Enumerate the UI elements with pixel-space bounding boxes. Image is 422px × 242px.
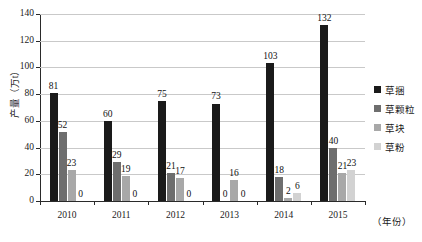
x-axis-title: （年份） bbox=[372, 214, 412, 228]
x-axis-tick bbox=[311, 201, 312, 205]
bar-value-label: 29 bbox=[102, 151, 132, 160]
bar bbox=[212, 104, 220, 202]
bar-value-label: 52 bbox=[48, 121, 78, 130]
x-axis-tick bbox=[257, 201, 258, 205]
bar-value-label: 0 bbox=[66, 190, 96, 199]
x-axis-tick-label: 2014 bbox=[258, 210, 310, 220]
legend-item[interactable]: 草捆 bbox=[374, 80, 415, 99]
bar bbox=[158, 101, 166, 201]
y-axis-tick bbox=[36, 121, 40, 122]
bar-value-label: 73 bbox=[201, 92, 231, 101]
bar bbox=[284, 198, 292, 201]
y-axis-tick bbox=[36, 174, 40, 175]
x-axis-tick bbox=[365, 201, 366, 205]
x-axis-tick bbox=[203, 201, 204, 205]
bar-value-label: 23 bbox=[336, 159, 366, 168]
bar bbox=[347, 170, 355, 201]
gridline bbox=[40, 67, 365, 68]
legend-label: 草粉 bbox=[385, 140, 405, 154]
legend-label: 草颗粒 bbox=[385, 102, 415, 116]
bar-value-label: 40 bbox=[318, 137, 348, 146]
y-axis-tick-label: 100 bbox=[6, 62, 34, 71]
y-axis-tick bbox=[36, 148, 40, 149]
y-axis-tick-label: 40 bbox=[6, 143, 34, 152]
bar-value-label: 0 bbox=[228, 190, 258, 199]
legend-item[interactable]: 草粉 bbox=[374, 137, 415, 156]
legend-label: 草捆 bbox=[385, 83, 405, 97]
legend-swatch-icon bbox=[374, 86, 381, 93]
x-axis-tick-label: 2012 bbox=[149, 210, 201, 220]
chart-legend: 草捆草颗粒草块草粉 bbox=[374, 80, 415, 156]
bar bbox=[329, 148, 337, 201]
y-axis-tick bbox=[36, 14, 40, 15]
x-axis-tick-label: 2013 bbox=[204, 210, 256, 220]
y-axis-tick-label: 140 bbox=[6, 9, 34, 18]
bar bbox=[320, 25, 328, 201]
bar bbox=[338, 173, 346, 201]
bar bbox=[266, 63, 274, 201]
bar bbox=[50, 93, 58, 201]
y-axis-tick-label: 20 bbox=[6, 169, 34, 178]
y-axis-tick-label: 120 bbox=[6, 36, 34, 45]
bar-value-label: 0 bbox=[174, 190, 204, 199]
bar-value-label: 23 bbox=[57, 159, 87, 168]
y-axis-tick-label: 60 bbox=[6, 116, 34, 125]
x-axis-tick bbox=[94, 201, 95, 205]
bar-chart: 产量（万t） 020406080100120140201081522302011… bbox=[0, 0, 422, 242]
bar-value-label: 132 bbox=[309, 14, 339, 23]
gridline bbox=[40, 174, 365, 175]
gridline bbox=[40, 148, 365, 149]
x-axis-tick-label: 2011 bbox=[95, 210, 147, 220]
bar bbox=[104, 121, 112, 201]
legend-label: 草块 bbox=[385, 121, 405, 135]
bar-value-label: 19 bbox=[111, 165, 141, 174]
bar-value-label: 75 bbox=[147, 90, 177, 99]
legend-swatch-icon bbox=[374, 143, 381, 150]
bar-value-label: 16 bbox=[219, 169, 249, 178]
y-axis-tick-label: 0 bbox=[6, 196, 34, 205]
gridline bbox=[40, 41, 365, 42]
bar-value-label: 6 bbox=[282, 182, 312, 191]
legend-swatch-icon bbox=[374, 124, 381, 131]
legend-item[interactable]: 草颗粒 bbox=[374, 99, 415, 118]
bar-value-label: 81 bbox=[39, 82, 69, 91]
x-axis-tick-label: 2015 bbox=[312, 210, 364, 220]
y-axis-tick bbox=[36, 94, 40, 95]
bar-value-label: 18 bbox=[264, 166, 294, 175]
y-axis-tick bbox=[36, 41, 40, 42]
gridline bbox=[40, 121, 365, 122]
y-axis-tick-label: 80 bbox=[6, 89, 34, 98]
bar-value-label: 0 bbox=[120, 190, 150, 199]
x-axis-tick bbox=[148, 201, 149, 205]
x-axis-tick bbox=[40, 201, 41, 205]
y-axis-tick bbox=[36, 67, 40, 68]
legend-swatch-icon bbox=[374, 105, 381, 112]
bar bbox=[293, 193, 301, 201]
bar-value-label: 103 bbox=[255, 52, 285, 61]
y-axis-line bbox=[40, 14, 41, 201]
bar-value-label: 17 bbox=[165, 167, 195, 176]
bar-value-label: 60 bbox=[93, 110, 123, 119]
plot-area: 0204060801001201402010815223020116029190… bbox=[40, 14, 365, 201]
legend-item[interactable]: 草块 bbox=[374, 118, 415, 137]
x-axis-tick-label: 2010 bbox=[41, 210, 93, 220]
